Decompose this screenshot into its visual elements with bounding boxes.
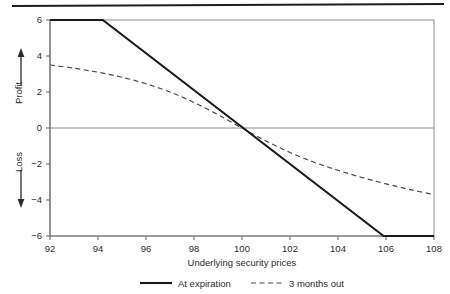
figure-container: 6420−2−4−6 92949698100102104106108 Under… (0, 0, 450, 294)
y-axis-label-group: Profit Loss (13, 48, 24, 208)
legend-label-3-months-out: 3 months out (289, 278, 344, 289)
y-tick-label: 2 (37, 86, 42, 97)
legend-item-3-months-out: 3 months out (251, 278, 344, 289)
x-axis-tick-labels: 92949698100102104106108 (45, 243, 442, 254)
profit-up-arrow-icon (18, 48, 25, 86)
y-axis-ticks (46, 20, 50, 236)
x-tick-label: 92 (45, 243, 56, 254)
x-tick-label: 96 (141, 243, 152, 254)
y-tick-label: −2 (31, 158, 42, 169)
y-axis-tick-labels: 6420−2−4−6 (31, 14, 42, 241)
profit-loss-chart: 6420−2−4−6 92949698100102104106108 Under… (0, 0, 450, 294)
x-tick-label: 106 (378, 243, 394, 254)
loss-down-arrow-icon (18, 170, 25, 208)
y-tick-label: 0 (37, 122, 42, 133)
y-tick-label: 6 (37, 14, 42, 25)
y-tick-label: 4 (37, 50, 42, 61)
x-axis-label: Underlying security prices (188, 257, 297, 268)
legend-item-at-expiration: At expiration (140, 278, 231, 289)
y-tick-label: −4 (31, 194, 42, 205)
x-axis-ticks (50, 236, 434, 240)
chart-legend: At expiration 3 months out (140, 278, 344, 289)
x-tick-label: 108 (426, 243, 442, 254)
x-tick-label: 94 (93, 243, 104, 254)
y-axis-label-profit: Profit (13, 81, 24, 104)
x-tick-label: 100 (234, 243, 250, 254)
y-axis-label-loss: Loss (13, 152, 24, 172)
x-tick-label: 104 (330, 243, 346, 254)
x-tick-label: 102 (282, 243, 298, 254)
legend-label-at-expiration: At expiration (178, 278, 231, 289)
series-line-3-months-out (50, 65, 434, 195)
x-tick-label: 98 (189, 243, 200, 254)
y-tick-label: −6 (31, 230, 42, 241)
